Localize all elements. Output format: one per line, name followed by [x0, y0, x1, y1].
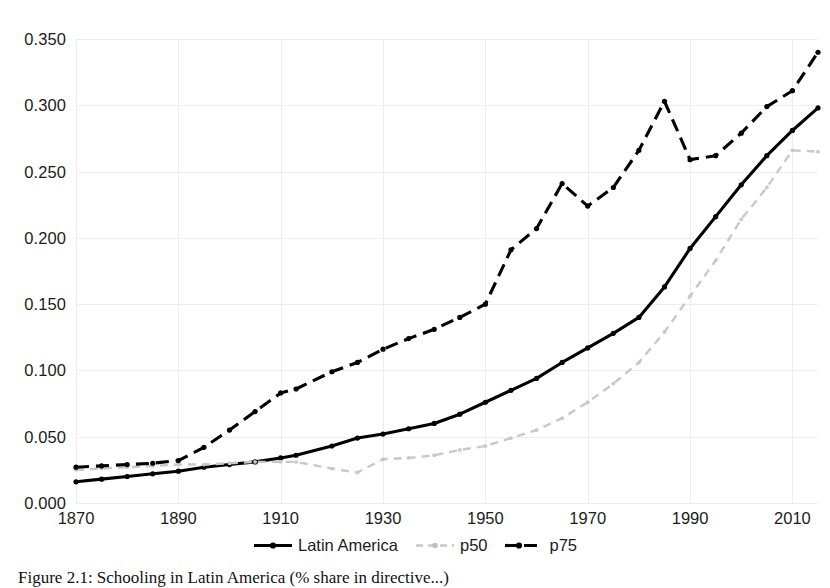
gridline-v	[383, 39, 384, 503]
y-axis-tick-label: 0.250	[0, 162, 66, 181]
x-axis-tick-label: 1970	[569, 509, 606, 528]
chart-legend: Latin America p50 p75	[0, 536, 830, 555]
gridline-h	[76, 370, 818, 371]
gridline-v	[485, 39, 486, 503]
x-axis-tick-label: 1950	[467, 509, 504, 528]
legend-label-latin-america: Latin America	[298, 536, 398, 555]
gridline-v	[281, 39, 282, 503]
y-axis-tick-label: 0.200	[0, 228, 66, 247]
x-axis-tick-label: 1870	[58, 509, 95, 528]
y-axis-tick-label: 0.150	[0, 295, 66, 314]
x-axis-tick-label: 1930	[365, 509, 402, 528]
gridline-v	[690, 39, 691, 503]
legend-item-p75[interactable]: p75	[504, 536, 577, 555]
plot-area	[76, 39, 818, 503]
y-axis-tick-label: 0.300	[0, 96, 66, 115]
y-axis-tick-label: 0.050	[0, 427, 66, 446]
x-axis-tick-label: 1990	[672, 509, 709, 528]
x-axis-tick-label: 1890	[160, 509, 197, 528]
gridline-h	[76, 39, 818, 40]
y-axis-tick-label: 0.100	[0, 361, 66, 380]
gridline-v	[76, 39, 77, 503]
gridline-v	[588, 39, 589, 503]
y-axis-tick-label: 0.000	[0, 494, 66, 513]
gridline-h	[76, 172, 818, 173]
gridline-h	[76, 105, 818, 106]
gridline-v	[178, 39, 179, 503]
legend-swatch-p50	[415, 539, 455, 552]
gridline-v	[792, 39, 793, 503]
legend-label-p75: p75	[549, 536, 577, 555]
legend-swatch-p75	[504, 539, 544, 552]
x-axis-tick-label: 1910	[262, 509, 299, 528]
legend-label-p50: p50	[460, 536, 488, 555]
legend-item-latin-america[interactable]: Latin America	[253, 536, 398, 555]
gridline-h	[76, 304, 818, 305]
legend-item-p50[interactable]: p50	[415, 536, 488, 555]
legend-swatch-latin-america	[253, 539, 293, 552]
gridline-h	[76, 437, 818, 438]
gridline-h	[76, 238, 818, 239]
x-axis-tick-label: 2010	[774, 509, 811, 528]
y-axis-tick-label: 0.350	[0, 30, 66, 49]
figure-caption: Figure 2.1: Schooling in Latin America (…	[18, 568, 818, 588]
gridline-h	[76, 503, 818, 504]
